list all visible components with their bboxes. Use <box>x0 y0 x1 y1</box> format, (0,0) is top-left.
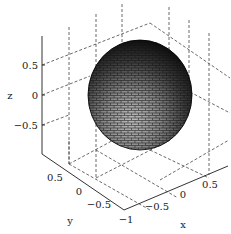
x-tick-0.5: 0.5 <box>202 179 218 190</box>
z-axis-label: z <box>7 90 12 101</box>
sphere-3d-plot: 0.5 0 −0.5 0.5 0 −0.5 −1 −0.5 0 0.5 z y … <box>0 0 231 234</box>
z-tick-0: 0 <box>32 90 38 101</box>
y-tick-minus-0.5: −0.5 <box>87 199 111 210</box>
x-tick-minus-0.5: −0.5 <box>145 201 169 212</box>
z-tick-labels: 0.5 0 −0.5 <box>14 60 38 131</box>
x-tick-0: 0 <box>180 189 186 200</box>
y-axis-label: y <box>66 215 73 226</box>
x-tick-minus-1: −1 <box>119 214 134 225</box>
z-tick-minus-0.5: −0.5 <box>14 120 38 131</box>
x-axis-label: x <box>180 219 186 230</box>
x-tick-labels: −1 −0.5 0 0.5 <box>119 179 218 225</box>
y-tick-labels: 0.5 0 −0.5 <box>47 172 111 210</box>
y-tick-0.5: 0.5 <box>47 172 63 183</box>
sphere-surface <box>85 38 195 153</box>
y-tick-0: 0 <box>76 186 82 197</box>
z-tick-0.5: 0.5 <box>22 60 38 71</box>
